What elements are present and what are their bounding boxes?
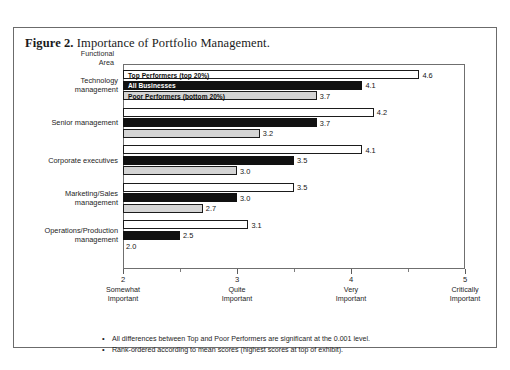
x-tick-major (351, 269, 352, 274)
legend-label-0: Top Performers (top 20%) (128, 71, 209, 78)
bar-value-label: 4.6 (419, 70, 432, 79)
bar-value-label: 3.0 (237, 166, 250, 175)
bar-0 (123, 220, 248, 229)
figure-note-text: Rank-ordered according to mean scores (h… (112, 346, 343, 354)
x-tick-description-line: Important (316, 295, 386, 304)
bar-value-label: 3.1 (248, 220, 261, 229)
x-tick-major (237, 269, 238, 274)
legend-label-1: All Businesses (128, 82, 176, 89)
category-label: Technologymanagement (22, 76, 118, 94)
category-label: Senior management (22, 118, 118, 127)
category-label-line: Senior management (22, 118, 118, 127)
figure-note-text: All differences between Top and Poor Per… (112, 335, 370, 343)
category-label-line: Corporate executives (22, 156, 118, 165)
category-label-line: management (22, 85, 118, 94)
x-tick-description-line: Important (430, 295, 500, 304)
bar-value-label: 2.5 (180, 231, 193, 240)
bar-0 (123, 145, 362, 154)
bar-value-label: 4.1 (362, 145, 375, 154)
y-axis-title-line: Area (32, 59, 114, 68)
x-tick-description: CriticallyImportant (430, 286, 500, 303)
figure-frame: Figure 2. Importance of Portfolio Manage… (13, 27, 497, 348)
bar-row: 3.2 (123, 129, 465, 138)
category-label-line: management (22, 235, 118, 244)
bar-row: 2.0 (123, 241, 465, 250)
category-label: Operations/Productionmanagement (22, 226, 118, 244)
x-axis: 2SomewhatImportant3QuiteImportant4VeryIm… (123, 269, 465, 329)
bar-value-label: 2.0 (123, 241, 136, 250)
x-tick-description: SomewhatImportant (88, 286, 158, 303)
bar-row: All Businesses4.1 (123, 81, 465, 90)
bar-row: 3.5 (123, 156, 465, 165)
bar-2 (123, 129, 260, 138)
bar-2 (123, 166, 237, 175)
bar-2: Poor Performers (bottom 20%) (123, 91, 317, 100)
bar-row: 2.5 (123, 231, 465, 240)
bullet-icon: • (102, 334, 105, 344)
bar-value-label: 3.5 (294, 183, 307, 192)
bullet-icon: • (102, 345, 105, 355)
bar-0 (123, 183, 294, 192)
category-label: Marketing/Salesmanagement (22, 189, 118, 207)
bar-row: 3.5 (123, 183, 465, 192)
x-tick-description-line: Important (202, 295, 272, 304)
figure-title-text: Importance of Portfolio Management. (77, 36, 270, 50)
bar-value-label: 3.7 (317, 91, 330, 100)
y-axis-title: FunctionalArea (32, 50, 114, 67)
bar-2 (123, 204, 203, 213)
bar-value-label: 3.2 (260, 129, 273, 138)
x-tick-major (123, 269, 124, 274)
bar-value-label: 4.2 (374, 108, 387, 117)
x-tick-description: QuiteImportant (202, 286, 272, 303)
bar-value-label: 2.7 (203, 204, 216, 213)
bar-1 (123, 231, 180, 240)
category-label-line: Operations/Production (22, 226, 118, 235)
x-tick-description-line: Important (88, 295, 158, 304)
x-tick-number: 4 (349, 275, 353, 284)
figure-title: Figure 2. Importance of Portfolio Manage… (25, 36, 270, 51)
bar-1 (123, 156, 294, 165)
category-label-line: Marketing/Sales (22, 189, 118, 198)
bar-0 (123, 108, 374, 117)
figure-note: •Rank-ordered according to mean scores (… (102, 345, 462, 355)
bar-value-label: 3.5 (294, 156, 307, 165)
bar-value-label: 4.1 (362, 81, 375, 90)
bar-row: Top Performers (top 20%)4.6 (123, 70, 465, 79)
legend-label-2: Poor Performers (bottom 20%) (128, 92, 225, 99)
category-label-line: Technology (22, 76, 118, 85)
category-label: Corporate executives (22, 156, 118, 165)
bar-row: 3.1 (123, 220, 465, 229)
x-tick-minor (294, 269, 295, 272)
bar-row: 2.7 (123, 204, 465, 213)
bar-value-label: 3.7 (317, 118, 330, 127)
bar-1: All Businesses (123, 81, 362, 90)
bar-1 (123, 193, 237, 202)
bar-row: 3.7 (123, 118, 465, 127)
chart-plot-area: Top Performers (top 20%)4.6All Businesse… (123, 64, 465, 269)
bar-1 (123, 118, 317, 127)
x-tick-number: 5 (463, 275, 467, 284)
x-tick-minor (408, 269, 409, 272)
x-tick-description: VeryImportant (316, 286, 386, 303)
bar-value-label: 3.0 (237, 193, 250, 202)
figure-note: •All differences between Top and Poor Pe… (102, 334, 462, 344)
x-tick-number: 2 (121, 275, 125, 284)
bar-row: 4.1 (123, 145, 465, 154)
figure-number: Figure 2. (25, 36, 74, 50)
bar-row: 4.2 (123, 108, 465, 117)
bar-0: Top Performers (top 20%) (123, 70, 419, 79)
category-label-line: management (22, 198, 118, 207)
bar-row: Poor Performers (bottom 20%)3.7 (123, 91, 465, 100)
bar-row: 3.0 (123, 166, 465, 175)
x-tick-number: 3 (235, 275, 239, 284)
figure-notes: •All differences between Top and Poor Pe… (102, 334, 462, 356)
x-tick-minor (180, 269, 181, 272)
bar-row: 3.0 (123, 193, 465, 202)
x-tick-major (465, 269, 466, 274)
